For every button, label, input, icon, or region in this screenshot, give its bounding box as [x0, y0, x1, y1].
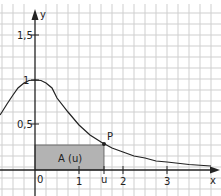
- y-axis-arrow-icon: [32, 9, 39, 20]
- grid: [0, 4, 221, 196]
- x-tick-label-u: u: [101, 174, 107, 185]
- area-label: A (u): [58, 153, 82, 164]
- x-axis-label: x: [210, 175, 216, 186]
- x-tick-label-1: 1: [76, 176, 82, 187]
- x-tick-label-2: 2: [120, 176, 126, 187]
- y-axis-label: y: [40, 9, 46, 20]
- x-axis-arrow-icon: [210, 167, 220, 174]
- y-tick-label-1-5: 1,5: [17, 30, 33, 41]
- origin-label: 0: [37, 174, 43, 185]
- x-tick-label-3: 3: [164, 176, 170, 187]
- function-graph: y x 0 1 u 2 3 0,5 1 1,5 P A (u): [0, 0, 221, 196]
- point-p: [102, 142, 106, 146]
- y-tick-label-0-5: 0,5: [17, 119, 33, 130]
- y-tick-label-1: 1: [23, 75, 29, 86]
- point-p-label: P: [107, 131, 113, 142]
